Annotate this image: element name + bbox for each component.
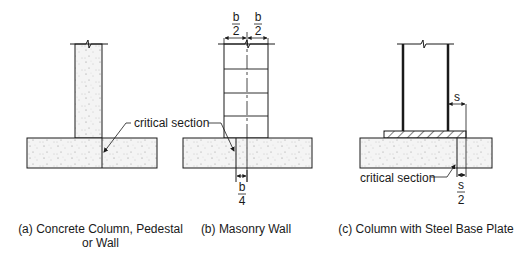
panel-a-concrete-column	[27, 40, 157, 168]
footing-b	[183, 138, 312, 168]
wall-b	[224, 44, 268, 138]
caption-b: (b) Masonry Wall	[196, 222, 296, 236]
caption-a-line1: (a) Concrete Column, Pedestal	[18, 222, 183, 236]
dim-b-over-2-left-den: 2	[233, 24, 240, 38]
base-plate	[384, 131, 466, 138]
caption-c: (c) Column with Steel Base Plate	[336, 222, 516, 236]
panel-b-masonry-wall: b 2 b 2 b 4	[183, 10, 312, 208]
dim-s: s	[454, 90, 460, 104]
critical-section-label-c: critical section	[360, 171, 435, 185]
caption-a-line2: or Wall	[18, 236, 183, 250]
break-line-icon	[397, 40, 454, 48]
dim-b-over-2-left-num: b	[233, 10, 240, 24]
caption-a: (a) Concrete Column, Pedestal or Wall	[18, 222, 183, 250]
caption-c-line1: (c) Column with Steel Base Plate	[336, 222, 516, 236]
footing-c	[360, 138, 492, 168]
dim-s-over-2-den: 2	[458, 193, 465, 207]
critical-section-label-ab: critical section	[134, 116, 209, 130]
footing-a	[27, 138, 157, 168]
dim-b-over-4-num: b	[239, 180, 246, 194]
footing-critical-section-diagram: b 2 b 2 b 4 critical section s s	[0, 0, 527, 256]
dim-b-over-2-right-num: b	[255, 10, 262, 24]
panel-c-steel-base-plate: s s 2 critical section	[360, 40, 492, 207]
caption-b-line1: (b) Masonry Wall	[196, 222, 296, 236]
dim-b-over-4-den: 4	[239, 194, 246, 208]
column-a	[75, 44, 102, 138]
dim-s-over-2-num: s	[458, 178, 464, 192]
dim-b-over-2-right-den: 2	[255, 24, 262, 38]
